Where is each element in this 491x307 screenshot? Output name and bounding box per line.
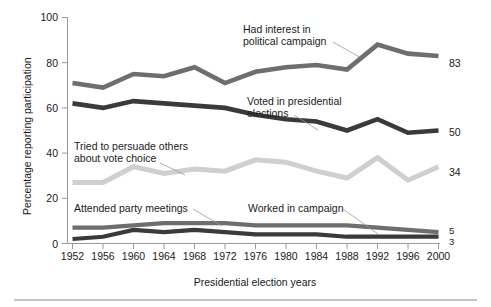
x-tick-label-1960: 1960 — [122, 250, 146, 262]
annotation-voted-line1: Voted in presidential — [247, 95, 342, 107]
annotation-worked: Worked in campaign — [248, 202, 378, 234]
x-axis-ticks — [73, 244, 439, 250]
series-line-worked — [73, 230, 439, 239]
line-chart-canvas: 100 80 60 40 20 0 1952 1956 1960 1964 19… — [0, 0, 491, 307]
chart-figure: 100 80 60 40 20 0 1952 1956 1960 1964 19… — [0, 0, 491, 307]
y-axis-title: Percentage reporting participation — [21, 57, 33, 215]
y-axis-ticks — [62, 18, 68, 244]
leader-line-worked — [343, 209, 378, 234]
end-label-persuade: 34 — [449, 166, 461, 178]
x-tick-label-1984: 1984 — [305, 250, 329, 262]
annotation-persuade-line1: Tried to persuade others — [74, 140, 188, 152]
x-tick-label-1988: 1988 — [335, 250, 359, 262]
annotation-persuade-line2: about vote choice — [74, 152, 156, 164]
annotation-attended-line1: Attended party meetings — [74, 202, 188, 214]
series-line-had-interest — [73, 45, 439, 88]
x-tick-label-1952: 1952 — [61, 250, 85, 262]
x-tick-label-1964: 1964 — [152, 250, 176, 262]
x-tick-label-1968: 1968 — [183, 250, 207, 262]
annotation-had-interest: Had interest in political campaign — [243, 23, 361, 58]
y-tick-label-20: 20 — [46, 192, 58, 204]
end-label-worked: 3 — [449, 236, 454, 247]
y-tick-label-80: 80 — [46, 57, 58, 69]
x-tick-label-1976: 1976 — [244, 250, 268, 262]
x-tick-label-1996: 1996 — [396, 250, 420, 262]
end-label-voted: 50 — [449, 126, 461, 138]
x-tick-label-1972: 1972 — [213, 250, 237, 262]
annotation-had-interest-line2: political campaign — [243, 35, 327, 47]
end-label-attended: 5 — [449, 225, 454, 236]
x-tick-label-1956: 1956 — [91, 250, 115, 262]
annotation-had-interest-line1: Had interest in — [243, 23, 311, 35]
annotation-worked-line1: Worked in campaign — [248, 202, 344, 214]
y-tick-label-0: 0 — [52, 238, 58, 250]
y-tick-label-100: 100 — [40, 11, 58, 23]
x-tick-label-1992: 1992 — [366, 250, 390, 262]
end-label-had-interest: 83 — [449, 57, 461, 69]
x-tick-label-1980: 1980 — [274, 250, 298, 262]
x-axis-title: Presidential election years — [194, 276, 317, 288]
annotation-voted-line2: elections — [247, 107, 288, 119]
x-tick-label-2000: 2000 — [427, 250, 451, 262]
y-tick-label-40: 40 — [46, 147, 58, 159]
leader-line-had-interest — [333, 42, 361, 58]
y-tick-label-60: 60 — [46, 102, 58, 114]
